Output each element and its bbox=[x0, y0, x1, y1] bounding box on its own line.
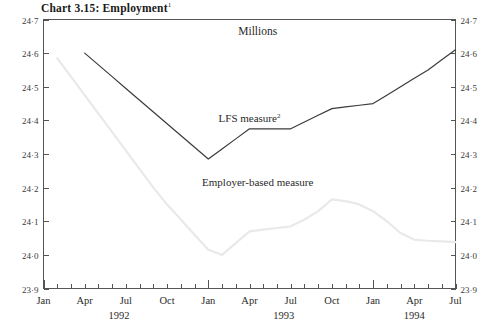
x-axis-month-label: Oct bbox=[324, 295, 339, 306]
y-tick-label-left: 24·2 bbox=[22, 184, 39, 194]
x-axis-month-label: Apr bbox=[241, 295, 258, 306]
x-axis-year-labels: 199219931994 bbox=[109, 310, 426, 321]
y-tick-label-left: 24·3 bbox=[22, 150, 39, 160]
annotation-text: Employer-based measure bbox=[202, 176, 313, 188]
y-tick-label-left: 24·5 bbox=[22, 83, 39, 93]
y-tick-label-left: 24·1 bbox=[22, 217, 39, 227]
annotation-text: Millions bbox=[238, 25, 278, 37]
x-axis-year-label: 1993 bbox=[273, 310, 294, 321]
series-line bbox=[57, 58, 455, 255]
y-tick-label-right: 24·1 bbox=[461, 217, 478, 227]
y-tick-label-left: 24·0 bbox=[22, 251, 39, 261]
x-axis-month-label: Apr bbox=[77, 295, 94, 306]
annotation-text: LFS measure bbox=[219, 112, 277, 124]
y-tick-label-right: 24·5 bbox=[461, 83, 478, 93]
x-axis-ticks bbox=[45, 280, 457, 289]
y-axis-right-ticks bbox=[451, 21, 456, 290]
series-line bbox=[85, 50, 456, 159]
x-axis-month-labels: JanAprJulOctJanAprJulOctJanAprJul bbox=[37, 295, 462, 306]
y-tick-label-right: 24·7 bbox=[461, 16, 478, 26]
x-axis-month-label: Jul bbox=[120, 295, 132, 306]
series-annotation: Employer-based measure bbox=[202, 176, 313, 188]
x-axis-year-label: 1992 bbox=[109, 310, 130, 321]
series-lines bbox=[57, 50, 455, 255]
y-tick-label-left: 24·7 bbox=[22, 16, 39, 26]
annotation-footnote-marker: 2 bbox=[277, 112, 281, 120]
y-tick-label-right: 24·0 bbox=[461, 251, 478, 261]
chart-annotations: MillionsLFS measure2Employer-based measu… bbox=[202, 25, 313, 188]
y-tick-label-right: 24·6 bbox=[461, 49, 478, 59]
y-tick-label-right: 24·2 bbox=[461, 184, 478, 194]
x-axis-month-label: Apr bbox=[406, 295, 423, 306]
x-axis-month-label: Jul bbox=[285, 295, 297, 306]
y-tick-label-right: 23·9 bbox=[461, 285, 478, 295]
y-tick-label-right: 24·4 bbox=[461, 116, 478, 126]
y-axis-left-ticks bbox=[44, 21, 49, 290]
chart-plot-area: 24·724·624·524·424·324·224·124·023·9 24·… bbox=[0, 0, 498, 329]
x-axis-year-label: 1994 bbox=[404, 310, 426, 321]
x-axis-month-label: Jan bbox=[37, 295, 52, 306]
x-axis-month-label: Jul bbox=[449, 295, 461, 306]
y-tick-label-left: 23·9 bbox=[22, 285, 39, 295]
x-axis-month-label: Oct bbox=[160, 295, 175, 306]
series-annotation: LFS measure2 bbox=[219, 112, 281, 124]
x-axis-month-label: Jan bbox=[201, 295, 216, 306]
x-axis-month-label: Jan bbox=[366, 295, 381, 306]
y-tick-label-left: 24·4 bbox=[22, 116, 39, 126]
y-tick-label-right: 24·3 bbox=[461, 150, 478, 160]
y-axis-left-labels: 24·724·624·524·424·324·224·124·023·9 bbox=[22, 16, 39, 295]
y-axis-right-labels: 24·724·624·524·424·324·224·124·023·9 bbox=[461, 16, 478, 295]
chart-figure: Chart 3.15: Employment1 24·724·624·524·4… bbox=[0, 0, 498, 329]
units-annotation: Millions bbox=[238, 25, 278, 37]
y-tick-label-left: 24·6 bbox=[22, 49, 39, 59]
